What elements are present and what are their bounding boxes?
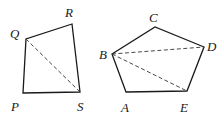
- vertex-label-q: Q: [10, 26, 20, 41]
- vertex-label-s: S: [77, 99, 84, 114]
- vertex-label-p: P: [10, 99, 19, 114]
- polygon-diagonals-diagram: P Q R S A B C D E: [0, 0, 223, 117]
- vertex-label-d: D: [206, 39, 217, 54]
- pentagon-outline: [112, 27, 204, 92]
- vertex-label-b: B: [99, 47, 107, 62]
- vertex-label-a: A: [120, 100, 129, 115]
- vertex-label-e: E: [179, 100, 188, 115]
- diagonal-bd: [112, 47, 204, 54]
- quadrilateral-outline: [23, 24, 80, 93]
- quadrilateral-pqrs: P Q R S: [10, 5, 84, 114]
- vertex-label-r: R: [64, 5, 73, 20]
- vertex-label-c: C: [149, 10, 158, 25]
- diagonal-qs: [26, 39, 80, 92]
- pentagon-abcde: A B C D E: [99, 10, 217, 115]
